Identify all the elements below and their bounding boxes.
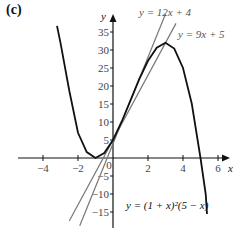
svg-text:6: 6 (215, 162, 221, 174)
svg-text:5: 5 (104, 134, 110, 146)
svg-text:−4: −4 (37, 162, 49, 174)
axes (18, 14, 230, 228)
tangent-line-9x-plus-5 (69, 23, 176, 221)
svg-text:−5: −5 (97, 170, 109, 182)
x-axis-arrow-icon (222, 155, 230, 162)
x-tick-labels: −4 −2 2 4 6 0 (37, 159, 221, 174)
svg-text:4: 4 (180, 162, 186, 174)
svg-text:20: 20 (98, 80, 110, 92)
y-axis-arrow-icon (110, 14, 117, 22)
svg-text:15: 15 (98, 98, 110, 110)
svg-text:35: 35 (98, 26, 110, 38)
y-axis-label: y (100, 10, 106, 22)
chart-plot: −4 −2 2 4 6 0 35 30 25 20 15 10 5 −5 −10… (0, 0, 240, 228)
cubic-curve (57, 26, 207, 214)
svg-text:30: 30 (98, 44, 110, 56)
tangent2-equation-label: y = 9x + 5 (177, 28, 225, 40)
svg-text:10: 10 (98, 116, 110, 128)
curve-equation-label: y = (1 + x)²(5 − x) (125, 199, 209, 212)
x-axis-label: x (227, 162, 233, 174)
tangent1-equation-label: y = 12x + 4 (138, 6, 192, 18)
svg-text:2: 2 (145, 162, 151, 174)
svg-text:−2: −2 (72, 162, 84, 174)
svg-text:25: 25 (98, 62, 110, 74)
svg-text:−15: −15 (92, 206, 110, 218)
